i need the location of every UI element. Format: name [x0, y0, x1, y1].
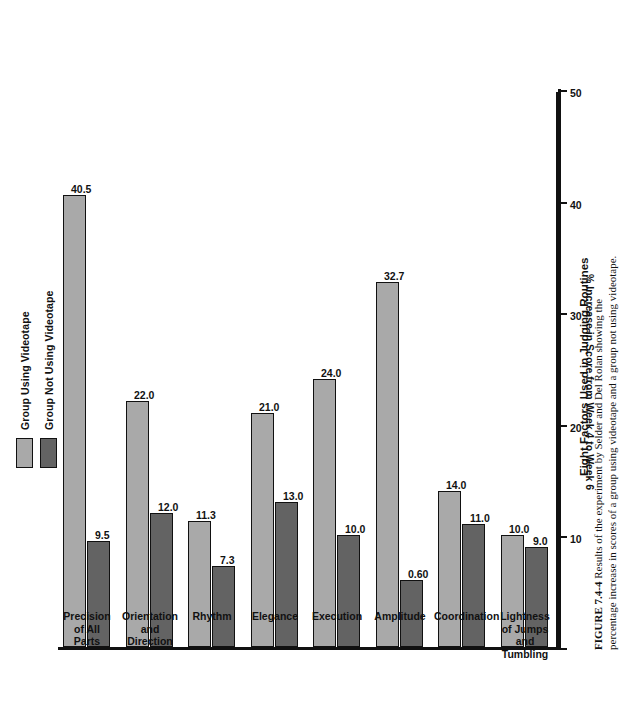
- chart-legend: Group Using Videotape Group Not Using Vi…: [16, 291, 64, 468]
- legend-swatch-light: [16, 438, 33, 468]
- bar-value-label: 9.0: [533, 535, 548, 547]
- bar-value-label: 11.3: [196, 509, 216, 521]
- axis-tick-label: 40: [570, 199, 582, 211]
- value-axis: 1020304050: [558, 89, 561, 650]
- axis-tick: [558, 425, 567, 427]
- bar-using-videotape: [188, 521, 211, 647]
- axis-tick: [558, 648, 567, 650]
- bar-not-using-videotape: [275, 502, 298, 647]
- category-label: Execution: [309, 610, 365, 623]
- bar-value-label: 0.60: [408, 568, 428, 580]
- bar-value-label: 21.0: [259, 401, 279, 413]
- legend-label-not-using-videotape: Group Not Using Videotape: [43, 291, 55, 430]
- bar-value-label: 40.5: [71, 183, 91, 195]
- legend-label-using-videotape: Group Using Videotape: [19, 311, 31, 430]
- category-label: Precision of All Parts: [59, 610, 115, 648]
- legend-item-using-videotape: Group Using Videotape: [16, 291, 33, 468]
- bar-using-videotape: [63, 195, 86, 647]
- bar-not-using-videotape: [462, 524, 485, 647]
- category-label: Amplitude: [372, 610, 428, 623]
- bar-value-label: 12.0: [158, 501, 178, 513]
- bar-using-videotape: [376, 282, 399, 647]
- category-axis-title: Eight Factors Used in Judging Routines: [578, 257, 590, 476]
- bar-not-using-videotape: [212, 566, 235, 647]
- caption-figure-number: FIGURE 7.4-4: [592, 582, 604, 650]
- axis-tick: [558, 90, 567, 92]
- bar-using-videotape: [313, 379, 336, 647]
- axis-tick: [558, 536, 567, 538]
- bar-value-label: 9.5: [95, 529, 110, 541]
- axis-tick-label: 10: [570, 533, 582, 545]
- axis-tick: [558, 313, 567, 315]
- legend-item-not-using-videotape: Group Not Using Videotape: [40, 291, 57, 468]
- legend-swatch-dark: [40, 438, 57, 468]
- bar-value-label: 22.0: [134, 389, 154, 401]
- bar-value-label: 10.0: [509, 523, 529, 535]
- axis-tick-label: 50: [570, 87, 582, 99]
- bar-value-label: 24.0: [321, 367, 341, 379]
- bar-value-label: 32.7: [384, 270, 404, 282]
- category-label: Orientation and Direction: [122, 610, 178, 648]
- category-label: Coordination: [434, 610, 490, 623]
- category-label: Lightness of Jumps and Tumbling: [497, 610, 553, 660]
- category-label: Rhythm: [184, 610, 240, 623]
- bar-value-label: 13.0: [283, 490, 303, 502]
- bar-not-using-videotape: [337, 535, 360, 647]
- bar-value-label: 7.3: [220, 554, 235, 566]
- plot-area: 40.59.522.012.011.37.321.013.024.010.032…: [58, 92, 558, 650]
- bar-value-label: 11.0: [470, 512, 490, 524]
- figure-caption: FIGURE 7.4-4 Results of the experiment b…: [592, 250, 619, 650]
- axis-tick: [558, 202, 567, 204]
- bar-using-videotape: [438, 491, 461, 647]
- bar-value-label: 10.0: [345, 523, 365, 535]
- bar-value-label: 14.0: [446, 479, 466, 491]
- category-label: Elegance: [247, 610, 303, 623]
